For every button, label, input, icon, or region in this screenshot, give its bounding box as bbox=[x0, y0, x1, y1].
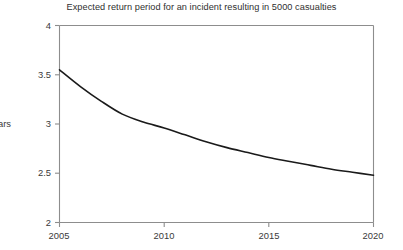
y-axis-title: Years bbox=[0, 119, 11, 129]
y-axis-ticks bbox=[55, 26, 60, 223]
x-tick-label-2005: 2005 bbox=[37, 231, 81, 241]
x-tick-label-2020: 2020 bbox=[351, 231, 395, 241]
x-tick-label-2015: 2015 bbox=[247, 231, 291, 241]
y-tick-label-2.5: 2.5 bbox=[17, 168, 51, 178]
chart-figure: Expected return period for an incident r… bbox=[0, 0, 403, 250]
y-tick-label-2: 2 bbox=[17, 218, 51, 228]
y-tick-label-4: 4 bbox=[17, 21, 51, 31]
x-tick-label-2010: 2010 bbox=[142, 231, 186, 241]
y-tick-label-3: 3 bbox=[17, 119, 51, 129]
data-series-line bbox=[60, 70, 374, 175]
y-tick-label-3.5: 3.5 bbox=[17, 70, 51, 80]
plot-area bbox=[0, 0, 403, 250]
axis-frame bbox=[60, 26, 374, 223]
x-axis-ticks bbox=[60, 223, 374, 228]
